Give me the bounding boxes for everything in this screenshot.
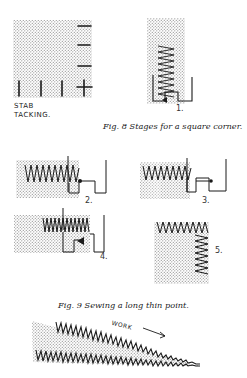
stab-tacking-diagram bbox=[13, 20, 92, 98]
stab-tacking-label-line1: STAB bbox=[14, 102, 51, 111]
stage-1-diagram bbox=[147, 18, 192, 104]
stage-5-number: 5. bbox=[215, 246, 223, 255]
fig8-caption: Fig. 8 Stages for a square corner. bbox=[103, 121, 242, 131]
stab-tacking-label: STAB TACKING. bbox=[14, 102, 51, 120]
arrow-right-icon bbox=[143, 328, 165, 338]
stage-4-diagram bbox=[14, 208, 104, 253]
stage-3-diagram bbox=[140, 158, 226, 199]
stage-5-diagram bbox=[154, 222, 209, 284]
stage-4-number: 4. bbox=[100, 252, 108, 261]
stage-3-number: 3. bbox=[202, 196, 210, 205]
stage-1-number: 1. bbox=[176, 104, 184, 113]
stab-tacking-label-line2: TACKING. bbox=[14, 111, 51, 120]
stage-2-number: 2. bbox=[85, 196, 93, 205]
fig9-caption: Fig. 9 Sewing a long thin point. bbox=[58, 300, 189, 310]
stage-2-diagram bbox=[16, 156, 106, 198]
